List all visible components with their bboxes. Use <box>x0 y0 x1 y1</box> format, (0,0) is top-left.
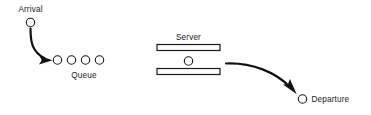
queue-entity-circle-4 <box>95 56 103 64</box>
departure-label: Departure <box>312 95 350 104</box>
arrival-to-queue-arrow-path <box>31 29 46 59</box>
arrival-to-queue-arrowhead <box>39 56 53 65</box>
queue-entity-circle-1 <box>53 56 61 64</box>
queue-label: Queue <box>71 71 97 80</box>
arrival-label: Arrival <box>18 5 42 14</box>
queue-entity-circle-3 <box>81 56 89 64</box>
queue-entity-circle-2 <box>67 56 75 64</box>
server-label: Server <box>176 33 201 42</box>
server-entity-circle <box>184 57 192 65</box>
diagram-canvas: Arrival Queue Server Departure <box>0 0 371 115</box>
server-to-departure-arrow-path <box>226 63 291 88</box>
server-top-bar <box>157 45 220 51</box>
arrival-entity-circle <box>26 18 34 26</box>
queueing-system-diagram: Arrival Queue Server Departure <box>0 0 371 115</box>
departure-entity-circle <box>298 95 306 103</box>
server-bottom-bar <box>157 69 220 75</box>
